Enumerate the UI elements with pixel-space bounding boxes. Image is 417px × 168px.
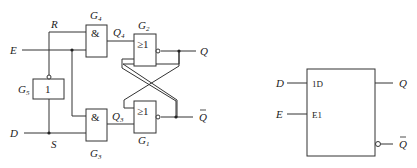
- junction-dot: [174, 115, 177, 118]
- label-g5: G5: [18, 83, 30, 97]
- label-g1: G1: [138, 134, 149, 148]
- inversion-bubble: [156, 49, 160, 53]
- svg-text:≥1: ≥1: [137, 105, 149, 117]
- label-r: R: [50, 18, 58, 30]
- junction-dot: [47, 131, 50, 134]
- svg-text:E1: E1: [312, 110, 322, 120]
- inversion-bubble: [376, 142, 381, 147]
- svg-text:1: 1: [45, 83, 51, 95]
- label-e: E: [9, 44, 17, 56]
- gate-g3: &: [86, 109, 107, 141]
- svg-text:D: D: [275, 77, 284, 89]
- gate-g2: ≥1: [134, 34, 160, 66]
- gate-g4: &: [86, 25, 107, 57]
- junction-dot: [70, 48, 73, 51]
- label-qbar: Q: [199, 111, 207, 123]
- gate-g1: ≥1: [134, 101, 160, 133]
- junction-dot: [177, 49, 180, 52]
- label-q: Q: [200, 45, 208, 57]
- label-g3: G3: [90, 147, 102, 161]
- label-q3: Q3: [112, 110, 124, 124]
- label-q4: Q4: [113, 26, 125, 40]
- svg-text:Q: Q: [399, 138, 407, 150]
- svg-text:&: &: [91, 111, 100, 123]
- label-g2: G2: [138, 19, 150, 33]
- inversion-bubble: [47, 75, 51, 79]
- svg-text:E: E: [275, 108, 283, 120]
- svg-text:≥1: ≥1: [137, 38, 149, 50]
- label-g4: G4: [90, 9, 102, 23]
- svg-text:&: &: [91, 27, 100, 39]
- label-d: D: [9, 127, 18, 139]
- gate-g5: 1: [33, 75, 64, 99]
- svg-text:Q: Q: [399, 77, 407, 89]
- d-latch-diagram: & & ≥1 ≥1 1 R E D S G4 G3 G2 G1 G5 Q4 Q3…: [0, 0, 417, 168]
- inversion-bubble: [156, 115, 160, 119]
- label-s: S: [51, 138, 57, 150]
- d-latch-symbol: D 1D E E1 Q Q: [275, 69, 407, 156]
- svg-text:1D: 1D: [312, 79, 324, 89]
